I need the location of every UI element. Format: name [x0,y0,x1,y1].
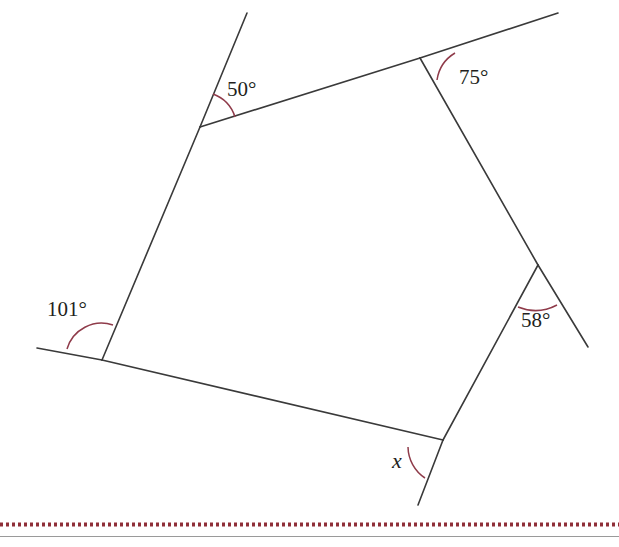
ray-from-left [37,348,102,360]
angle-label-top-left: 50° [227,79,256,100]
ray-from-bottom [418,440,443,505]
angle-label-right: 58° [521,310,550,331]
geometry-canvas [0,0,619,547]
side-right-to-bottom [443,265,538,440]
bottom-horizontal-rule [0,536,619,537]
side-top-right-to-right [420,58,538,265]
angle-arcs [67,53,557,478]
ray-from-top-left [200,13,247,127]
angle-label-bottom: x [392,450,402,472]
extended-rays [37,13,588,505]
ray-from-top-right [420,13,558,58]
angle-label-left: 101° [47,299,87,320]
side-left-to-top-left [102,127,200,360]
angle-arc-101 [67,323,113,349]
dotted-divider [0,522,619,527]
angle-arc-x [408,447,425,478]
angle-label-top-right: 75° [459,67,488,88]
angle-arc-75 [437,53,455,80]
geometry-figure: 50° 75° 58° x 101° [0,0,619,547]
pentagon-sides [102,58,538,440]
ray-from-right [538,265,588,347]
side-bottom-to-left [102,360,443,440]
